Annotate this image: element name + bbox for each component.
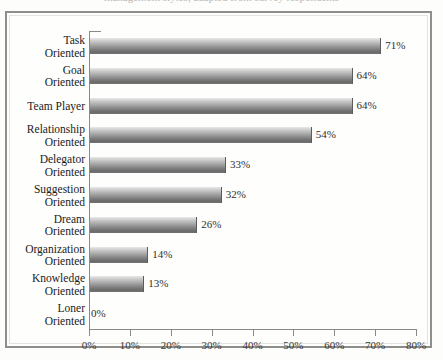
bar xyxy=(90,38,381,54)
bar xyxy=(90,127,312,143)
category-label-line: Oriented xyxy=(7,225,85,238)
bar-value-label: 71% xyxy=(385,39,405,51)
x-axis-tick-label: 30% xyxy=(202,339,222,351)
category-label-line: Oriented xyxy=(7,196,85,209)
category-label-line: Oriented xyxy=(7,136,85,149)
x-axis-tick xyxy=(253,330,254,336)
category-label-line: Oriented xyxy=(7,255,85,268)
bar xyxy=(90,98,353,114)
bar-row: 14% xyxy=(89,247,416,263)
category-label-line: Delegator xyxy=(7,153,85,166)
y-axis-category-label: TaskOriented xyxy=(7,34,85,59)
category-label-line: Oriented xyxy=(7,166,85,179)
x-axis-tick xyxy=(171,330,172,336)
bar xyxy=(90,68,353,84)
bar-row: 64% xyxy=(89,68,416,84)
x-axis-tick-label: 0% xyxy=(82,339,97,351)
bar-value-label: 13% xyxy=(148,277,168,289)
bar-value-label: 32% xyxy=(226,188,246,200)
x-axis-tick xyxy=(334,330,335,336)
chart-screenshot: management styles, adapted from survey r… xyxy=(0,0,443,360)
x-axis-tick-label: 40% xyxy=(242,339,262,351)
category-label-line: Knowledge xyxy=(7,272,85,285)
bar-value-label: 54% xyxy=(316,128,336,140)
bar-row: 26% xyxy=(89,217,416,233)
caption-sliver-text: management styles, adapted from survey r… xyxy=(104,0,339,3)
y-axis-category-label: KnowledgeOriented xyxy=(7,272,85,297)
bar xyxy=(90,276,144,292)
bar-value-label: 14% xyxy=(152,248,172,260)
category-label-line: Oriented xyxy=(7,315,85,328)
x-axis-tick-label: 50% xyxy=(283,339,303,351)
bar-row: 54% xyxy=(89,127,416,143)
x-axis-tick-label: 80% xyxy=(406,339,426,351)
category-label-line: Dream xyxy=(7,213,85,226)
category-label-line: Oriented xyxy=(7,47,85,60)
category-label-line: Organization xyxy=(7,243,85,256)
category-label-line: Suggestion xyxy=(7,183,85,196)
y-axis-category-label: DelegatorOriented xyxy=(7,153,85,178)
x-axis-tick-label: 20% xyxy=(161,339,181,351)
bar-row: 33% xyxy=(89,157,416,173)
x-axis-tick xyxy=(293,330,294,336)
x-axis-tick-label: 10% xyxy=(120,339,140,351)
bar-row: 13% xyxy=(89,276,416,292)
y-axis-category-label: RelationshipOriented xyxy=(7,123,85,148)
y-axis-category-labels: TaskOrientedGoalOrientedTeam PlayerRelat… xyxy=(7,31,85,330)
bar xyxy=(90,187,222,203)
category-label-line: Task xyxy=(7,34,85,47)
caption-sliver: management styles, adapted from survey r… xyxy=(0,0,443,9)
bar-value-label: 64% xyxy=(357,99,377,111)
x-axis-tick xyxy=(375,330,376,336)
x-axis-tick xyxy=(416,330,417,336)
bar xyxy=(90,217,197,233)
bar xyxy=(90,157,226,173)
category-label-line: Oriented xyxy=(7,76,85,89)
bar-value-label: 0% xyxy=(91,307,106,319)
axis-top-cap xyxy=(89,31,101,32)
y-axis-category-label: DreamOriented xyxy=(7,213,85,238)
bar-value-label: 26% xyxy=(201,218,221,230)
category-label-line: Relationship xyxy=(7,123,85,136)
category-label-line: Goal xyxy=(7,64,85,77)
category-label-line: Team Player xyxy=(7,100,85,113)
figure-frame: TaskOrientedGoalOrientedTeam PlayerRelat… xyxy=(5,11,432,348)
x-axis-tick-label: 60% xyxy=(324,339,344,351)
category-label-line: Loner xyxy=(7,302,85,315)
bar-value-label: 33% xyxy=(230,158,250,170)
bar-row: 0% xyxy=(89,306,416,322)
y-axis-category-label: LonerOriented xyxy=(7,302,85,327)
bar-value-label: 64% xyxy=(357,69,377,81)
plot-area: 0%10%20%30%40%50%60%70%80% 71%64%64%54%3… xyxy=(89,31,416,330)
x-axis-tick-label: 70% xyxy=(365,339,385,351)
bar xyxy=(90,247,148,263)
x-axis-tick xyxy=(130,330,131,336)
bar-row: 64% xyxy=(89,98,416,114)
bar-row: 71% xyxy=(89,38,416,54)
category-label-line: Oriented xyxy=(7,285,85,298)
bar-row: 32% xyxy=(89,187,416,203)
y-axis-category-label: OrganizationOriented xyxy=(7,243,85,268)
y-axis-category-label: GoalOriented xyxy=(7,64,85,89)
x-axis-tick xyxy=(212,330,213,336)
y-axis-category-label: SuggestionOriented xyxy=(7,183,85,208)
x-axis-tick xyxy=(89,330,90,336)
y-axis-category-label: Team Player xyxy=(7,100,85,113)
